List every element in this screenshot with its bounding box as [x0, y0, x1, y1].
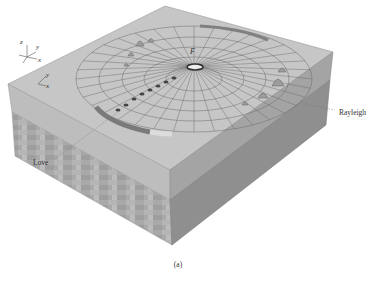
rayleigh-label: Rayleigh [339, 108, 366, 117]
axis-x-label: x [37, 56, 42, 64]
layered-medium-diagram: z y x y x F Love Rayleigh (a) [0, 0, 377, 296]
axis-triad-3d [19, 45, 37, 63]
figure-caption: (a) [174, 260, 183, 269]
source-label: F [189, 47, 195, 56]
axis-z-label: z [19, 38, 23, 46]
love-band-light [150, 132, 172, 134]
source-marker [187, 64, 203, 70]
axis-y-label: y [35, 43, 40, 51]
love-label: Love [33, 158, 49, 167]
